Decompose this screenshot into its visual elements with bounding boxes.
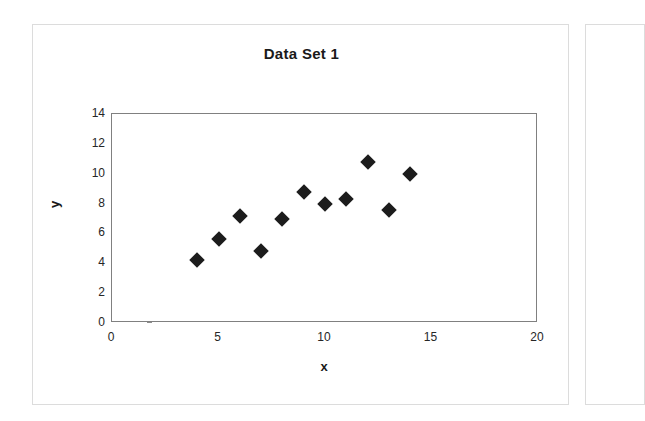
data-markers-layer bbox=[112, 114, 536, 321]
data-point-marker bbox=[339, 191, 355, 207]
x-axis-tick-label: 20 bbox=[517, 331, 557, 343]
data-point-marker bbox=[402, 166, 418, 182]
x-axis-tick-labels: 05101520 bbox=[111, 331, 537, 347]
y-axis-tick-label: 10 bbox=[75, 167, 105, 179]
x-axis-tick-label: 5 bbox=[198, 331, 238, 343]
plot-area bbox=[111, 113, 537, 322]
y-axis-tick-label: 14 bbox=[75, 107, 105, 119]
y-axis-title: y bbox=[47, 201, 62, 208]
y-axis-tick-label: 8 bbox=[75, 197, 105, 209]
y-axis-tick-label: 0 bbox=[75, 316, 105, 328]
data-point-marker bbox=[296, 184, 312, 200]
y-axis-tick-label: 12 bbox=[75, 137, 105, 149]
data-point-marker bbox=[189, 253, 205, 269]
adjacent-page-panel bbox=[585, 24, 645, 405]
chart-title: Data Set 1 bbox=[33, 45, 570, 62]
data-point-marker bbox=[275, 211, 291, 227]
x-axis-title: x bbox=[111, 359, 537, 374]
scatter-chart: Data Set 1 y 02468101214 05101520 x bbox=[33, 25, 570, 406]
data-point-marker bbox=[232, 208, 248, 224]
data-point-marker bbox=[381, 202, 397, 218]
y-axis-tick-label: 2 bbox=[75, 286, 105, 298]
chart-panel: Data Set 1 y 02468101214 05101520 x bbox=[32, 24, 569, 405]
y-axis-tick-labels: 02468101214 bbox=[73, 113, 105, 322]
data-point-marker bbox=[317, 196, 333, 212]
x-axis-tick-label: 10 bbox=[304, 331, 344, 343]
x-axis-tick-label: 15 bbox=[411, 331, 451, 343]
data-point-marker bbox=[253, 244, 269, 260]
y-axis-tick-label: 4 bbox=[75, 256, 105, 268]
x-axis-tick-label: 0 bbox=[91, 331, 131, 343]
data-point-marker bbox=[360, 154, 376, 170]
y-axis-tick-label: 6 bbox=[75, 226, 105, 238]
data-point-marker bbox=[211, 232, 227, 248]
y-axis-tick-mark bbox=[147, 322, 152, 323]
